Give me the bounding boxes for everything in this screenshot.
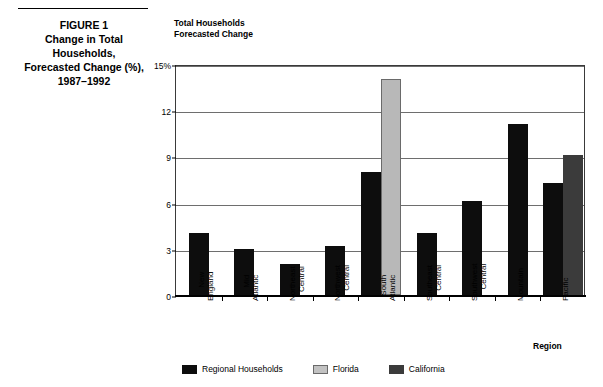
plot-area: 03691215% (175, 65, 585, 296)
bar-group (222, 66, 268, 295)
chart-axis-header: Total Households Forecasted Change (174, 18, 253, 40)
x-axis-category-label: NorthwestCentral (333, 301, 369, 319)
bar-chart: Total Households Forecasted Change 03691… (150, 12, 590, 357)
legend-swatch-icon (182, 365, 197, 374)
legend-item[interactable]: Florida (313, 364, 359, 374)
x-axis-category-label: SouthAtlantic (379, 301, 405, 319)
x-axis-category-label: NortheastCentral (288, 301, 323, 319)
legend-item[interactable]: California (389, 364, 445, 374)
legend-item-label: Regional Households (202, 364, 283, 374)
legend-item-label: California (409, 364, 445, 374)
caption-divider-rule (18, 8, 148, 9)
bar-group (449, 66, 495, 295)
figure-number: FIGURE 1 (14, 18, 154, 32)
bar-group (176, 66, 222, 295)
caption-line-1: Change in Total (14, 32, 154, 46)
bar-regional-households[interactable] (361, 172, 381, 295)
x-axis-category-label: MidAtlantic (242, 301, 268, 319)
x-axis-category-label: Mountain (516, 301, 549, 310)
legend-swatch-icon (389, 365, 404, 374)
figure-caption-block: FIGURE 1 Change in Total Households, For… (14, 8, 154, 88)
figure-caption-text: FIGURE 1 Change in Total Households, For… (14, 18, 154, 88)
legend-item-label: Florida (333, 364, 359, 374)
legend-swatch-icon (313, 365, 328, 374)
bar-group (267, 66, 313, 295)
x-axis-category-label: NewEngland (197, 301, 226, 319)
x-axis-category-label: SoutheastCentral (425, 301, 461, 319)
caption-line-4: 1987–1992 (14, 74, 154, 88)
x-axis-category-label: SouthwestCentral (470, 301, 507, 319)
legend-item[interactable]: Regional Households (182, 364, 283, 374)
chart-header-line-2: Forecasted Change (174, 29, 253, 40)
x-axis-category-label: Pacific (561, 301, 585, 310)
bar-group (404, 66, 450, 295)
bar-california[interactable] (563, 155, 583, 295)
bar-group (313, 66, 359, 295)
chart-header-line-1: Total Households (174, 18, 253, 29)
caption-line-2: Households, (14, 46, 154, 60)
chart-legend: Regional HouseholdsFloridaCalifornia (182, 364, 475, 374)
caption-line-3: Forecasted Change (%), (14, 60, 154, 74)
bar-florida[interactable] (381, 79, 401, 295)
bar-group (358, 66, 404, 295)
x-axis-title: Region (533, 341, 562, 351)
bar-group (495, 66, 541, 295)
bar-group (540, 66, 586, 295)
